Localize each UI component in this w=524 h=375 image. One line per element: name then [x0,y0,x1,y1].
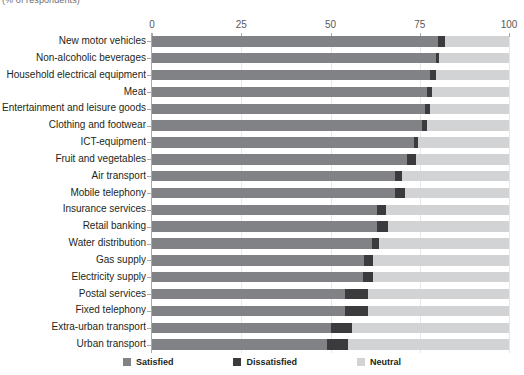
bar-segment-satisfied[interactable] [152,255,364,265]
bar-segment-dissatisfied[interactable] [364,255,373,265]
category-label: Electricity supply [0,269,146,286]
stacked-bar[interactable] [152,221,509,231]
bar-segment-dissatisfied[interactable] [345,306,368,316]
bar-segment-neutral[interactable] [430,104,509,114]
legend-item-neutral[interactable]: Neutral [357,357,401,367]
bar-segment-neutral[interactable] [439,53,509,63]
legend-label: Satisfied [136,357,174,367]
stacked-bar[interactable] [152,154,509,164]
y-axis-tick-mark [147,227,151,228]
bar-segment-satisfied[interactable] [152,137,414,147]
bar-segment-neutral[interactable] [405,188,509,198]
bar-segment-neutral[interactable] [373,272,509,282]
category-label: Meat [0,84,146,101]
bar-segment-neutral[interactable] [418,137,509,147]
bar-segment-neutral[interactable] [445,36,509,46]
bar-segment-satisfied[interactable] [152,171,395,181]
chart-row: Fruit and vegetables [0,151,524,168]
bar-segment-satisfied[interactable] [152,238,372,248]
bar-segment-neutral[interactable] [402,171,509,181]
bar-segment-satisfied[interactable] [152,221,377,231]
bar-segment-satisfied[interactable] [152,87,427,97]
stacked-bar[interactable] [152,238,509,248]
stacked-bar[interactable] [152,120,509,130]
category-label: ICT-equipment [0,134,146,151]
bar-segment-satisfied[interactable] [152,306,345,316]
bar-segment-dissatisfied[interactable] [438,36,445,46]
chart-row: Entertainment and leisure goods [0,100,524,117]
stacked-bar[interactable] [152,306,509,316]
bar-segment-satisfied[interactable] [152,289,345,299]
bar-segment-satisfied[interactable] [152,53,436,63]
stacked-bar[interactable] [152,272,509,282]
stacked-bar[interactable] [152,255,509,265]
chart-row: Water distribution [0,235,524,252]
stacked-bar[interactable] [152,339,509,349]
stacked-bar[interactable] [152,171,509,181]
legend-item-satisfied[interactable]: Satisfied [123,357,174,367]
bar-segment-dissatisfied[interactable] [327,339,348,349]
chart-row: Mobile telephony [0,185,524,202]
chart-row: Postal services [0,286,524,303]
bar-segment-neutral[interactable] [427,120,509,130]
bar-segment-dissatisfied[interactable] [377,205,386,215]
chart-row: Urban transport [0,336,524,353]
y-axis-tick-mark [147,260,151,261]
bar-segment-dissatisfied[interactable] [363,272,374,282]
x-axis-tick-label: 75 [414,19,425,30]
chart-row: Insurance services [0,201,524,218]
bar-segment-dissatisfied[interactable] [372,238,379,248]
bar-segment-dissatisfied[interactable] [345,289,368,299]
stacked-bar[interactable] [152,87,509,97]
bar-segment-satisfied[interactable] [152,339,327,349]
stacked-bar[interactable] [152,137,509,147]
bar-segment-dissatisfied[interactable] [331,323,352,333]
category-label: Fruit and vegetables [0,151,146,168]
bar-segment-neutral[interactable] [368,289,509,299]
category-label: Insurance services [0,201,146,218]
bar-segment-dissatisfied[interactable] [377,221,388,231]
bar-segment-dissatisfied[interactable] [407,154,416,164]
bar-segment-dissatisfied[interactable] [395,171,402,181]
y-axis-tick-mark [147,277,151,278]
bar-segment-neutral[interactable] [416,154,509,164]
bar-segment-neutral[interactable] [373,255,509,265]
stacked-bar[interactable] [152,36,509,46]
stacked-bar[interactable] [152,53,509,63]
bar-segment-neutral[interactable] [379,238,509,248]
chart-plot-area: New motor vehiclesNon-alcoholic beverage… [0,33,524,353]
y-axis-tick-mark [147,159,151,160]
chart-row: Meat [0,84,524,101]
bar-segment-satisfied[interactable] [152,205,377,215]
stacked-bar[interactable] [152,205,509,215]
stacked-bar[interactable] [152,323,509,333]
bar-segment-satisfied[interactable] [152,36,438,46]
category-label: Non-alcoholic beverages [0,50,146,67]
bar-segment-satisfied[interactable] [152,70,430,80]
bar-segment-neutral[interactable] [348,339,509,349]
bar-segment-neutral[interactable] [386,205,509,215]
stacked-bar[interactable] [152,289,509,299]
bar-segment-neutral[interactable] [368,306,509,316]
category-label: Retail banking [0,218,146,235]
bar-segment-neutral[interactable] [436,70,509,80]
bar-segment-satisfied[interactable] [152,272,363,282]
stacked-bar[interactable] [152,70,509,80]
bar-segment-neutral[interactable] [352,323,509,333]
bar-segment-satisfied[interactable] [152,154,407,164]
chart-row: ICT-equipment [0,134,524,151]
y-axis-tick-mark [147,92,151,93]
stacked-bar[interactable] [152,104,509,114]
category-label: Mobile telephony [0,185,146,202]
bar-segment-neutral[interactable] [388,221,509,231]
legend-item-dissatisfied[interactable]: Dissatisfied [233,357,297,367]
satisfied-swatch-icon [123,358,131,366]
bar-segment-satisfied[interactable] [152,120,422,130]
bar-segment-satisfied[interactable] [152,104,425,114]
bar-segment-dissatisfied[interactable] [395,188,406,198]
bar-segment-satisfied[interactable] [152,323,331,333]
stacked-bar[interactable] [152,188,509,198]
bar-segment-satisfied[interactable] [152,188,395,198]
bar-segment-neutral[interactable] [432,87,509,97]
x-axis-tick-label: 50 [325,19,336,30]
